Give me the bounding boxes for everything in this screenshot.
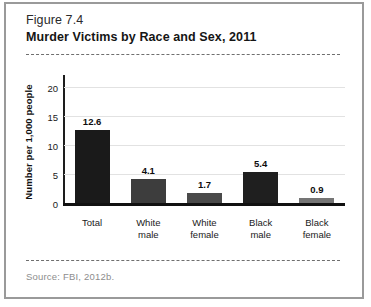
divider-top (26, 54, 340, 55)
y-gridline: 20 (64, 87, 345, 88)
y-axis-tick-label: 15 (47, 111, 58, 122)
y-gridline: 15 (64, 116, 345, 117)
x-axis-tick-label: White female (176, 217, 232, 240)
bar-value-label: 12.6 (83, 116, 102, 127)
y-axis-tick-label: 10 (47, 140, 58, 151)
x-axis-tick-label: Total (64, 217, 120, 229)
y-axis-tick-label: 20 (47, 82, 58, 93)
bar-value-label: 0.9 (310, 184, 323, 195)
x-axis-tick-label: Black female (289, 217, 345, 240)
source-note: Source: FBI, 2012b. (26, 271, 114, 282)
bar: 4.1 (131, 179, 166, 203)
bar-chart: Number per 1,000 people 0510152012.6Tota… (26, 66, 346, 251)
y-axis-tick-label: 5 (53, 169, 58, 180)
bar: 1.7 (187, 193, 222, 203)
figure-number: Figure 7.4 (26, 13, 83, 27)
x-axis-tick-label: Black male (233, 217, 289, 240)
bar-value-label: 1.7 (198, 179, 211, 190)
bar: 12.6 (75, 130, 110, 203)
y-axis-label: Number per 1,000 people (23, 82, 37, 202)
divider-bottom (26, 260, 340, 261)
figure-screenshot: Figure 7.4 Murder Victims by Race and Se… (0, 0, 371, 307)
bar-value-label: 4.1 (142, 165, 155, 176)
bar: 5.4 (243, 172, 278, 203)
y-axis-tick-label: 0 (53, 199, 58, 210)
bar: 0.9 (299, 198, 334, 203)
y-gridline: 0 (64, 203, 345, 204)
bar-value-label: 5.4 (254, 158, 267, 169)
page-title: Murder Victims by Race and Sex, 2011 (26, 30, 257, 44)
plot-area: 0510152012.6Total4.1White male1.7White f… (64, 75, 345, 203)
x-axis-tick-label: White male (120, 217, 176, 240)
